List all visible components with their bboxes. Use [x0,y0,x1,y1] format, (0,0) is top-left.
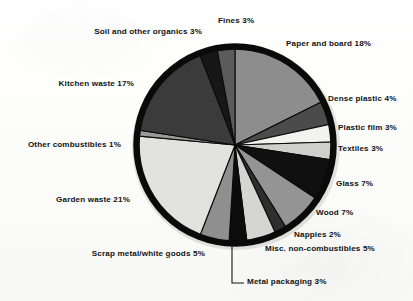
slice-label-dense-plastic: Dense plastic 4% [328,95,397,103]
slice-label-glass: Glass 7% [336,180,373,188]
slice-label-scrap-metal-white-goods: Scrap metal/white goods 5% [0,250,205,258]
slice-label-kitchen-waste: Kitchen waste 17% [0,80,134,88]
pie-chart-figure: Fines 3% Soil and other organics 3% Pape… [0,0,413,301]
slice-label-metal-packaging: Metal packaging 3% [247,278,327,286]
slice-label-paper-and-board: Paper and board 18% [286,40,371,48]
slice-label-misc-non-combustibles: Misc. non-combustibles 5% [265,245,375,253]
slice-label-plastic-film: Plastic film 3% [338,124,397,132]
slice-label-wood: Wood 7% [316,209,353,217]
chart-area: Fines 3% Soil and other organics 3% Pape… [0,0,413,301]
slice-label-textiles: Textiles 3% [338,145,383,153]
slice-label-other-combustibles: Other combustibles 1% [0,141,121,149]
slice-label-nappies: Nappies 2% [294,231,341,239]
slice-label-garden-waste: Garden waste 21% [0,196,130,204]
slice-label-soil-and-other-organics: Soil and other organics 3% [0,28,202,36]
slice-label-fines: Fines 3% [218,17,254,25]
